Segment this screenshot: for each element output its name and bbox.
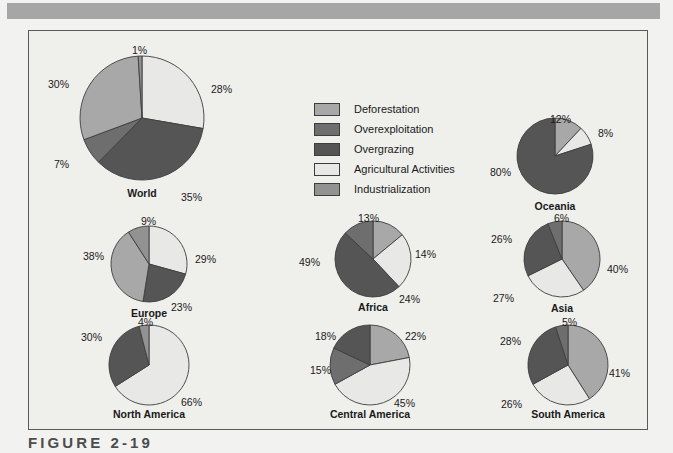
pie-chart-europe: [109, 224, 189, 304]
pie-chart-asia: [522, 219, 602, 299]
pie-slice-label-south-america-3: 5%: [562, 316, 577, 328]
legend-item-overexploitation: Overexploitation: [314, 119, 455, 139]
pie-slice-label-world-4: 1%: [132, 44, 147, 56]
pie-slice-label-oceania-0: 12%: [550, 113, 571, 125]
pie-slice-label-north-america-0: 66%: [181, 396, 202, 408]
legend-item-label: Overexploitation: [354, 123, 434, 135]
pie-slice-label-central-america-0: 22%: [405, 330, 426, 342]
figure-caption: FIGURE 2-19: [28, 434, 153, 451]
legend-item-deforestation: Deforestation: [314, 99, 455, 119]
pie-chart-central-america: [328, 323, 412, 407]
legend-item-label: Deforestation: [354, 103, 419, 115]
pie-slice-label-world-2: 7%: [54, 158, 69, 170]
pie-slice-label-europe-0: 29%: [195, 253, 216, 265]
pie-slice-label-world-1: 35%: [181, 191, 202, 203]
pie-slice-label-africa-3: 13%: [358, 212, 379, 224]
pie-slice-label-asia-1: 27%: [493, 292, 514, 304]
pie-chart-africa: [333, 219, 413, 299]
pie-title-north-america: North America: [69, 408, 229, 420]
pie-slice-label-africa-1: 24%: [399, 293, 420, 305]
legend-swatch-icon: [314, 183, 340, 196]
pie-slice-label-central-america-1: 45%: [394, 397, 415, 409]
pie-slice-label-north-america-2: 4%: [138, 316, 153, 328]
figure-page: World28%35%7%30%1%Oceania12%8%80%Europe2…: [0, 0, 673, 453]
pie-slice-label-south-america-1: 26%: [501, 398, 522, 410]
legend-item-agricultural-activities: Agricultural Activities: [314, 159, 455, 179]
legend-item-label: Agricultural Activities: [354, 163, 455, 175]
pie-slice-label-africa-2: 49%: [299, 256, 320, 268]
pie-slice-label-europe-2: 38%: [83, 250, 104, 262]
legend-item-label: Industrialization: [354, 183, 430, 195]
pie-slice-label-africa-0: 14%: [415, 248, 436, 260]
pie-slice-label-south-america-0: 41%: [609, 367, 630, 379]
pie-chart-world: [78, 54, 206, 182]
pie-chart-oceania: [515, 116, 595, 196]
legend-swatch-icon: [314, 163, 340, 176]
legend: DeforestationOverexploitationOvergrazing…: [314, 99, 455, 199]
pie-chart-north-america: [107, 323, 191, 407]
pie-slice-label-oceania-2: 80%: [490, 166, 511, 178]
legend-item-label: Overgrazing: [354, 143, 414, 155]
pie-slice-label-north-america-1: 30%: [81, 331, 102, 343]
pie-title-africa: Africa: [293, 301, 453, 313]
pie-slice-label-europe-1: 23%: [171, 301, 192, 313]
pie-slice-label-south-america-2: 28%: [500, 335, 521, 347]
top-gray-band: [7, 3, 660, 19]
pie-slice-label-world-0: 28%: [211, 83, 232, 95]
pie-slice-world-0: [142, 56, 204, 129]
legend-swatch-icon: [314, 103, 340, 116]
pie-slice-label-asia-3: 6%: [554, 212, 569, 224]
pie-slice-label-central-america-3: 18%: [315, 330, 336, 342]
pie-title-oceania: Oceania: [475, 200, 635, 212]
legend-item-industrialization: Industrialization: [314, 179, 455, 199]
pie-slice-label-asia-0: 40%: [607, 263, 628, 275]
pie-slice-label-europe-3: 9%: [141, 215, 156, 227]
figure-frame: World28%35%7%30%1%Oceania12%8%80%Europe2…: [28, 30, 648, 430]
legend-swatch-icon: [314, 123, 340, 136]
legend-swatch-icon: [314, 143, 340, 156]
pie-slice-label-asia-2: 26%: [491, 233, 512, 245]
pie-chart-south-america: [526, 323, 610, 407]
pie-slice-label-world-3: 30%: [48, 78, 69, 90]
pie-slice-label-oceania-1: 8%: [598, 127, 613, 139]
pie-title-central-america: Central America: [290, 408, 450, 420]
pie-slice-label-central-america-2: 15%: [310, 364, 331, 376]
legend-item-overgrazing: Overgrazing: [314, 139, 455, 159]
